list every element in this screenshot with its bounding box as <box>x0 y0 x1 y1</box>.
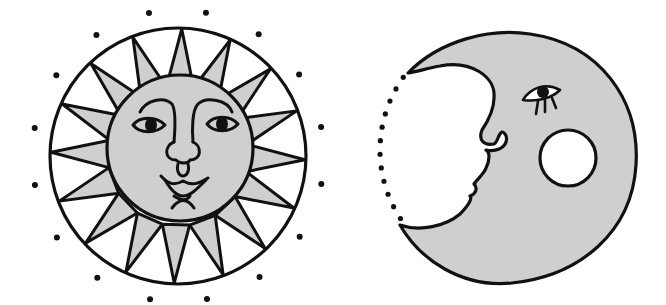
moon-edge-dot <box>387 99 392 104</box>
moon-cheek <box>540 130 596 186</box>
sun-icon <box>32 10 325 303</box>
sun-dot <box>53 72 59 78</box>
moon-edge-dot <box>391 204 396 209</box>
sun-dot <box>94 275 100 281</box>
sun-dot <box>204 296 210 302</box>
sun-dot <box>93 32 99 38</box>
moon-dotted-edge <box>377 75 405 221</box>
sun-left-pupil <box>145 118 157 132</box>
sun-right-pupil <box>216 117 228 131</box>
moon-edge-dot <box>381 179 386 184</box>
moon-edge-dot <box>383 111 388 116</box>
sun-dot <box>257 274 263 280</box>
moon-edge-dot <box>398 216 403 221</box>
moon-edge-dot <box>380 125 385 130</box>
sun-dot <box>318 181 324 187</box>
illustration-canvas: Sun and Moon with faces <box>0 0 666 305</box>
sun-moon-svg <box>0 0 666 305</box>
sun-dot <box>32 125 38 131</box>
sun-dot <box>203 10 209 16</box>
sun-dot <box>256 31 262 37</box>
sun-dot <box>147 296 153 302</box>
sun-dot <box>318 124 324 130</box>
moon-icon <box>377 33 636 284</box>
sun-dot <box>146 10 152 16</box>
moon-crescent <box>400 33 636 284</box>
moon-edge-dot <box>378 138 383 143</box>
moon-edge-dot <box>401 75 406 80</box>
sun-dot <box>32 182 38 188</box>
sun-dot <box>54 235 60 241</box>
moon-edge-dot <box>385 192 390 197</box>
sun-dot <box>296 71 302 77</box>
moon-edge-dot <box>393 86 398 91</box>
moon-edge-dot <box>377 152 382 157</box>
sun-dot <box>297 234 303 240</box>
moon-edge-dot <box>379 165 384 170</box>
